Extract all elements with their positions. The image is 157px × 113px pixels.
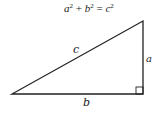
hypotenuse-label: c	[73, 43, 79, 56]
leg-a-label: a	[146, 53, 152, 64]
right-triangle-diagram: c a b	[0, 0, 157, 113]
right-triangle	[12, 21, 143, 94]
right-angle-marker	[136, 87, 143, 94]
leg-b-label: b	[83, 96, 90, 109]
